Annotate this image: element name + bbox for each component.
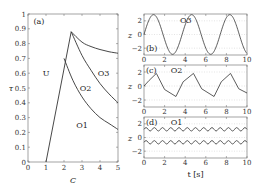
x-axis-label: t [s] <box>187 170 203 179</box>
y-tick-label: −2 <box>132 45 142 53</box>
panel-b: 0246810−202z(b)O3 <box>127 14 252 64</box>
figure: 01234500.10.20.30.40.50.60.70.80.91Cτ(a)… <box>0 0 263 191</box>
y-tick-label: 0.4 <box>15 99 27 107</box>
y-tick-label: 2 <box>138 120 142 128</box>
panel-a: 01234500.10.20.30.40.50.60.70.80.91Cτ(a)… <box>9 11 120 186</box>
x-tick-label: 8 <box>224 159 228 167</box>
x-tick-label: 4 <box>183 159 188 167</box>
y-tick-label: 0.2 <box>15 129 26 137</box>
x-axis-label: C <box>70 176 76 185</box>
time-series <box>144 73 247 96</box>
x-tick-label: 5 <box>116 164 120 172</box>
region-label: O2 <box>80 84 92 93</box>
x-tick-label: 0 <box>142 108 146 116</box>
regime-label: O2 <box>171 66 183 75</box>
y-tick-label: 0.6 <box>15 70 27 78</box>
y-tick-label: 2 <box>138 69 142 77</box>
y-tick-label: 0.8 <box>15 40 26 48</box>
y-axis-label: τ <box>9 84 14 93</box>
time-series <box>144 141 247 144</box>
y-tick-label: 0.1 <box>15 144 26 152</box>
y-tick-label: −2 <box>132 97 142 105</box>
panel-c: 0246810−202z(c)O2 <box>127 65 252 116</box>
y-tick-label: 2 <box>138 17 142 25</box>
x-tick-label: 2 <box>162 108 166 116</box>
boundary-curve <box>64 58 118 129</box>
panel-label: (c) <box>146 66 157 75</box>
x-tick-label: 6 <box>204 56 209 64</box>
y-tick-label: 0 <box>138 83 142 91</box>
x-tick-label: 6 <box>204 108 209 116</box>
y-tick-label: 0.3 <box>15 114 26 122</box>
x-tick-label: 1 <box>44 164 48 172</box>
region-label: O1 <box>76 121 88 130</box>
time-series <box>144 128 247 131</box>
x-tick-label: 8 <box>224 108 228 116</box>
y-tick-label: 0 <box>22 159 26 167</box>
x-tick-label: 2 <box>62 164 66 172</box>
y-tick-label: 0 <box>138 31 142 39</box>
y-axis-label: z <box>127 134 133 143</box>
x-tick-label: 10 <box>243 159 252 167</box>
x-tick-label: 10 <box>243 108 252 116</box>
x-tick-label: 0 <box>142 56 146 64</box>
boundary-curve <box>71 32 118 53</box>
regime-label: O3 <box>180 16 192 25</box>
x-tick-label: 8 <box>224 56 228 64</box>
y-axis-label: z <box>127 82 133 91</box>
x-tick-label: 0 <box>142 159 146 167</box>
panel-label: (b) <box>146 44 157 53</box>
x-tick-label: 6 <box>204 159 209 167</box>
x-tick-label: 2 <box>162 159 166 167</box>
x-tick-label: 4 <box>183 108 188 116</box>
region-label: (a) <box>33 17 44 26</box>
boundary-curve <box>71 32 118 103</box>
x-tick-label: 4 <box>183 56 188 64</box>
y-tick-label: −2 <box>132 148 142 156</box>
x-tick-label: 4 <box>98 164 103 172</box>
panel-label: (d) <box>146 118 157 127</box>
boundary-curve <box>46 32 71 162</box>
panel-d: 0246810−202zt [s](d)O1 <box>127 117 252 179</box>
x-tick-label: 3 <box>80 164 84 172</box>
x-tick-label: 10 <box>243 56 252 64</box>
y-tick-label: 0.7 <box>15 55 26 63</box>
y-axis-label: z <box>127 31 133 40</box>
y-tick-label: 0.9 <box>15 25 26 33</box>
y-tick-label: 0 <box>138 134 142 142</box>
regime-label: O1 <box>171 118 183 127</box>
y-tick-label: 1 <box>22 11 26 19</box>
region-label: O3 <box>98 69 110 78</box>
y-tick-label: 0.5 <box>15 85 26 93</box>
x-tick-label: 2 <box>162 56 166 64</box>
x-tick-label: 0 <box>26 164 30 172</box>
region-label: U <box>43 69 50 78</box>
